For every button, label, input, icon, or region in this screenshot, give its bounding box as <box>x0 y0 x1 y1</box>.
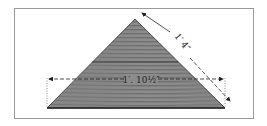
slant-dimension-label: 1′ 4″ <box>172 31 192 53</box>
triangle-diagram: 1′. 10½″ 1′ 4″ <box>0 0 267 126</box>
base-dimension-label: 1′. 10½″ <box>122 75 160 85</box>
triangle-shape <box>47 19 225 108</box>
slant-dimension-line-top <box>142 13 170 32</box>
